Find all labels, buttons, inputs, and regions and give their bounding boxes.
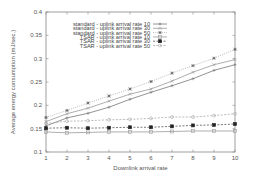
x-tick-label: 7 <box>170 155 174 161</box>
plus-marker-icon <box>234 63 237 66</box>
square-filled-marker-icon <box>108 126 111 129</box>
x-tick-label: 2 <box>65 155 69 161</box>
plus-marker-icon <box>150 91 153 94</box>
square-filled-marker-icon <box>213 123 216 126</box>
plus-marker-icon <box>159 23 162 26</box>
plus-marker-icon <box>213 69 216 72</box>
legend: standard - uplink arrival rate 10standar… <box>73 21 167 49</box>
x-tick-label: 10 <box>232 155 239 161</box>
asterisk-marker-icon <box>192 64 195 67</box>
series-layer <box>45 48 237 135</box>
square-filled-marker-icon <box>66 126 69 129</box>
x-tick-label: 6 <box>149 155 153 161</box>
series-line <box>45 112 237 125</box>
y-axis-label: Average energy consumption (mJ/sec.) <box>10 30 16 134</box>
plus-marker-icon <box>87 112 90 115</box>
x-tick-label: 4 <box>107 155 111 161</box>
plus-marker-icon <box>108 106 111 109</box>
line-chart: 0.10.150.20.250.30.350.4 12345678910 sta… <box>0 0 253 178</box>
legend-label: TSAR - uplink arrival rate 50 <box>80 43 150 49</box>
series-line <box>45 123 237 130</box>
x-tick-label: 9 <box>212 155 216 161</box>
series-line <box>45 130 237 135</box>
square-filled-marker-icon <box>234 123 237 126</box>
x-tick-label: 5 <box>128 155 132 161</box>
square-filled-marker-icon <box>171 125 174 128</box>
asterisk-marker-icon <box>213 57 216 60</box>
asterisk-marker-icon <box>108 95 111 98</box>
legend-item: TSAR - uplink arrival rate 50 <box>80 43 167 49</box>
square-filled-marker-icon <box>129 126 132 129</box>
asterisk-marker-icon <box>87 102 90 105</box>
asterisk-marker-icon <box>45 116 48 119</box>
series-line <box>45 58 237 123</box>
x-tick-label: 1 <box>44 155 48 161</box>
asterisk-marker-icon <box>234 48 237 51</box>
y-tick-label: 0.25 <box>30 79 42 85</box>
plus-marker-icon <box>192 77 195 80</box>
square-filled-marker-icon <box>159 40 162 43</box>
y-tick-label: 0.3 <box>34 56 43 62</box>
y-tick-label: 0.2 <box>34 102 43 108</box>
asterisk-marker-icon <box>129 88 132 91</box>
x-tick-label: 3 <box>86 155 90 161</box>
y-tick-label: 0.4 <box>34 9 43 15</box>
asterisk-marker-icon <box>159 31 162 34</box>
x-tick-label: 8 <box>191 155 195 161</box>
asterisk-marker-icon <box>171 72 174 75</box>
square-filled-marker-icon <box>150 126 153 129</box>
asterisk-marker-icon <box>150 80 153 83</box>
plus-marker-icon <box>129 98 132 101</box>
y-tick-label: 0.35 <box>30 32 42 38</box>
square-filled-marker-icon <box>45 127 48 130</box>
y-tick-label: 0.1 <box>34 149 43 155</box>
y-tick-label: 0.15 <box>30 126 42 132</box>
series-line <box>45 48 237 119</box>
x-axis-label: Downlink arrival rate <box>113 165 168 171</box>
plus-marker-icon <box>171 84 174 87</box>
plus-marker-icon <box>66 116 69 119</box>
asterisk-marker-icon <box>66 109 69 112</box>
square-filled-marker-icon <box>87 127 90 130</box>
series-line <box>45 63 237 127</box>
square-filled-marker-icon <box>192 124 195 127</box>
